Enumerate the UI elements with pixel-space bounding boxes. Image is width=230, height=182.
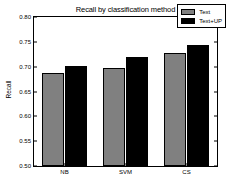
y-tick-label: 0.55 [19, 138, 31, 144]
y-tick-mark [34, 41, 37, 42]
y-tick-label: 0.75 [19, 39, 31, 45]
chart-figure: Recall by classification method Recall 0… [0, 0, 230, 182]
y-tick-mark [214, 141, 217, 142]
x-tick-label: SVM [119, 169, 132, 175]
legend-swatch-icon [181, 18, 195, 24]
y-tick-mark [34, 166, 37, 167]
bar [126, 57, 148, 166]
plot-inner: 0.500.550.600.650.700.750.80NBSVMCS [34, 17, 217, 166]
legend-swatch-icon [181, 9, 195, 15]
y-tick-mark [34, 17, 37, 18]
bar [42, 73, 64, 166]
y-tick-mark [214, 41, 217, 42]
y-tick-label: 0.65 [19, 89, 31, 95]
legend-item-label: Text [199, 9, 210, 15]
bar [103, 68, 125, 166]
y-tick-label: 0.50 [19, 163, 31, 169]
y-tick-mark [214, 116, 217, 117]
y-tick-mark [34, 66, 37, 67]
x-tick-label: CS [182, 169, 190, 175]
y-tick-mark [34, 141, 37, 142]
x-tick-mark [125, 163, 126, 166]
y-tick-mark [214, 91, 217, 92]
y-tick-label: 0.70 [19, 64, 31, 70]
y-tick-mark [34, 91, 37, 92]
y-tick-label: 0.80 [19, 14, 31, 20]
y-axis-label: Recall [5, 70, 12, 110]
legend-item: Text [181, 7, 222, 16]
x-tick-mark [186, 163, 187, 166]
legend-item: Text+UP [181, 16, 222, 25]
y-tick-label: 0.60 [19, 113, 31, 119]
bar [65, 66, 87, 166]
x-tick-label: NB [60, 169, 68, 175]
plot-area: 0.500.550.600.650.700.750.80NBSVMCS [33, 16, 218, 167]
chart-legend: Text Text+UP [177, 4, 226, 28]
bar [164, 53, 186, 166]
y-tick-mark [34, 116, 37, 117]
legend-item-label: Text+UP [199, 18, 222, 24]
y-tick-mark [214, 166, 217, 167]
y-tick-mark [214, 66, 217, 67]
x-tick-mark [64, 163, 65, 166]
bar [187, 45, 209, 166]
